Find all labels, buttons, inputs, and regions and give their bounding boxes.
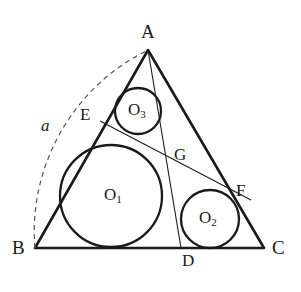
circle-label-o2-sub: 2 xyxy=(211,216,217,228)
point-label-g: G xyxy=(174,146,186,163)
circle-label-o2: O2 xyxy=(199,209,217,226)
circle-label-o3-base: O xyxy=(128,100,140,119)
circle-label-o1: O1 xyxy=(104,186,122,203)
circle-label-o3-sub: 3 xyxy=(140,108,146,120)
geometry-canvas xyxy=(0,0,301,292)
circle-label-o1-sub: 1 xyxy=(116,193,122,205)
point-label-e: E xyxy=(80,106,90,123)
circle-label-o1-base: O xyxy=(104,185,116,204)
point-label-f: F xyxy=(236,182,245,199)
circle-label-o2-base: O xyxy=(199,208,211,227)
point-label-d: D xyxy=(182,252,194,269)
arc-label-a: a xyxy=(41,117,50,134)
circle-label-o3: O3 xyxy=(128,101,146,118)
geometry-figure: A B C D E F G O1 O2 O3 a xyxy=(0,0,301,292)
vertex-label-a: A xyxy=(141,22,155,41)
vertex-label-b: B xyxy=(12,238,25,257)
vertex-label-c: C xyxy=(272,238,285,257)
triangle-abc xyxy=(35,50,264,248)
